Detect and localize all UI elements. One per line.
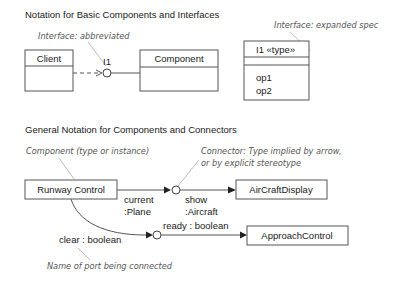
interface-operation-op1: op1 bbox=[256, 72, 272, 83]
port-clear-label: clear : boolean bbox=[59, 234, 121, 245]
note-interface-abbreviated: Interface: abbreviated bbox=[38, 31, 130, 41]
note-component-type-or-instance: Component (type or instance) bbox=[26, 146, 149, 156]
section2-heading: General Notation for Components and Conn… bbox=[25, 124, 237, 135]
component-box[interactable]: Component bbox=[140, 50, 218, 91]
filled-arrow-icon bbox=[240, 232, 247, 239]
runway-control-label: Runway Control bbox=[37, 184, 105, 195]
leader-line-component bbox=[59, 158, 74, 179]
filled-arrow-icon bbox=[164, 187, 171, 194]
client-component-box[interactable]: Client bbox=[25, 50, 73, 91]
port-show-label: show bbox=[185, 194, 207, 205]
note-connector-line1: Connector: Type implied by arrow, bbox=[201, 146, 342, 156]
leader-line-port bbox=[78, 248, 90, 260]
port-aircraft-type-label: :Aircraft bbox=[185, 206, 218, 217]
connector-lollipop-icon bbox=[172, 186, 180, 194]
approach-control-box[interactable]: ApproachControl bbox=[247, 226, 348, 245]
client-label: Client bbox=[37, 53, 62, 64]
component-label: Component bbox=[154, 53, 203, 64]
interface-operation-op2: op2 bbox=[256, 85, 272, 96]
aircraft-display-box[interactable]: AirCraftDisplay bbox=[236, 180, 327, 199]
component-notation-diagram: Notation for Basic Components and Interf… bbox=[0, 0, 401, 299]
port-current-label: current bbox=[124, 194, 154, 205]
port-plane-type-label: :Plane bbox=[124, 206, 151, 217]
filled-arrow-icon bbox=[146, 232, 153, 239]
interface-i1-label: I1 bbox=[103, 56, 111, 67]
leader-line-connector bbox=[178, 160, 199, 186]
note-interface-expanded: Interface: expanded spec bbox=[274, 20, 379, 30]
aircraft-display-label: AirCraftDisplay bbox=[249, 184, 313, 195]
port-ready-label: ready : boolean bbox=[163, 220, 229, 231]
section1-heading: Notation for Basic Components and Interf… bbox=[25, 9, 220, 20]
note-port-name: Name of port being connected bbox=[47, 261, 173, 271]
approach-control-label: ApproachControl bbox=[261, 230, 332, 241]
interface-lollipop-icon bbox=[103, 69, 111, 77]
runway-control-box[interactable]: Runway Control bbox=[25, 180, 117, 199]
interface-spec-header: I1 «type» bbox=[256, 44, 295, 55]
note-connector-line2: or by explicit stereotype bbox=[201, 158, 301, 168]
filled-arrow-icon bbox=[228, 187, 236, 194]
interface-spec-box[interactable]: I1 «type» op1 op2 bbox=[244, 41, 309, 100]
connector-lollipop-icon bbox=[153, 231, 161, 239]
